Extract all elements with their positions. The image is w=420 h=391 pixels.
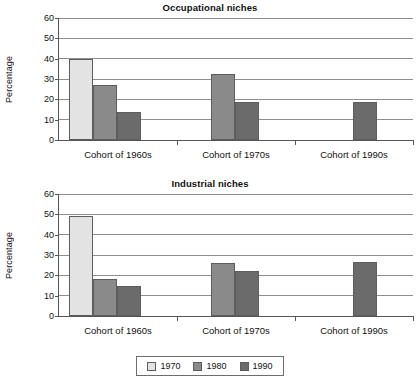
- y-tick-mark-50: [55, 38, 59, 39]
- y-tick-mark-60: [55, 194, 59, 195]
- y-tick-label-30: 30: [44, 75, 54, 84]
- gridline-30: [59, 255, 413, 256]
- y-tick-mark-30: [55, 255, 59, 256]
- y-tick-label-20: 20: [44, 95, 54, 104]
- legend-item-1970: 1970: [147, 362, 180, 371]
- y-tick-mark-40: [55, 59, 59, 60]
- bar-1980-industrial: [211, 263, 235, 316]
- category-separator: [177, 140, 178, 145]
- y-tick-label-40: 40: [44, 54, 54, 63]
- y-tick-label-50: 50: [44, 34, 54, 43]
- y-tick-label-10: 10: [44, 291, 54, 300]
- y-tick-label-60: 60: [44, 190, 54, 199]
- gridline-50: [59, 214, 413, 215]
- gridline-50: [59, 38, 413, 39]
- y-tick-mark-60: [55, 18, 59, 19]
- legend-swatch-icon: [240, 362, 249, 371]
- category-separator: [295, 140, 296, 145]
- y-tick-label-10: 10: [44, 115, 54, 124]
- legend-item-1980: 1980: [193, 362, 226, 371]
- legend-swatch-icon: [193, 362, 202, 371]
- x-axis-category-label: Cohort of 1960s: [84, 325, 152, 336]
- legend-label: 1990: [253, 362, 273, 371]
- legend-item-1990: 1990: [240, 362, 273, 371]
- axis-end-tick: [413, 140, 414, 145]
- chart-occupational-niches: Occupational niches Percentage 010203040…: [0, 0, 420, 168]
- bar-1990-occupational: [353, 102, 377, 140]
- gridline-0: [59, 316, 413, 317]
- y-tick-label-0: 0: [49, 312, 54, 321]
- chart-industrial-niches: Industrial niches Percentage 01020304050…: [0, 176, 420, 348]
- y-tick-mark-20: [55, 99, 59, 100]
- x-axis-category-label: Cohort of 1970s: [202, 149, 270, 160]
- y-tick-mark-50: [55, 214, 59, 215]
- y-tick-label-40: 40: [44, 230, 54, 239]
- bar-1980-occupational: [211, 74, 235, 140]
- y-tick-mark-30: [55, 79, 59, 80]
- bar-1970-industrial: [69, 216, 93, 316]
- y-axis-title-industrial: Percentage: [4, 210, 14, 300]
- legend-label: 1980: [206, 362, 226, 371]
- x-axis-category-label: Cohort of 1960s: [84, 149, 152, 160]
- plot-area-occupational: 0102030405060Cohort of 1960sCohort of 19…: [58, 18, 412, 140]
- figure-two-bar-charts: Occupational niches Percentage 010203040…: [0, 0, 420, 391]
- gridline-60: [59, 18, 413, 19]
- y-tick-label-50: 50: [44, 210, 54, 219]
- legend-swatch-icon: [147, 362, 156, 371]
- bar-1990-occupational: [235, 102, 259, 140]
- y-tick-label-30: 30: [44, 251, 54, 260]
- gridline-0: [59, 140, 413, 141]
- gridline-40: [59, 234, 413, 235]
- bar-1990-industrial: [353, 262, 377, 316]
- y-tick-label-60: 60: [44, 14, 54, 23]
- y-tick-mark-40: [55, 235, 59, 236]
- y-tick-mark-10: [55, 296, 59, 297]
- bar-1990-occupational: [117, 112, 141, 140]
- chart-title-occupational: Occupational niches: [0, 2, 420, 13]
- y-tick-mark-20: [55, 275, 59, 276]
- y-tick-label-20: 20: [44, 271, 54, 280]
- y-tick-label-0: 0: [49, 136, 54, 145]
- category-separator: [295, 316, 296, 321]
- y-tick-mark-10: [55, 120, 59, 121]
- chart-legend: 197019801990: [136, 356, 284, 376]
- bar-1970-occupational: [69, 59, 93, 140]
- category-separator: [177, 316, 178, 321]
- bar-1990-industrial: [235, 271, 259, 316]
- gridline-40: [59, 58, 413, 59]
- y-axis-title-occupational: Percentage: [4, 34, 14, 124]
- x-axis-category-label: Cohort of 1990s: [320, 149, 388, 160]
- gridline-30: [59, 79, 413, 80]
- bar-1980-industrial: [93, 279, 117, 316]
- gridline-60: [59, 194, 413, 195]
- x-axis-category-label: Cohort of 1990s: [320, 325, 388, 336]
- bar-1980-occupational: [93, 85, 117, 140]
- bar-1990-industrial: [117, 286, 141, 317]
- chart-title-industrial: Industrial niches: [0, 178, 420, 189]
- y-tick-mark-0: [55, 316, 59, 317]
- plot-area-industrial: 0102030405060Cohort of 1960sCohort of 19…: [58, 194, 412, 316]
- x-axis-category-label: Cohort of 1970s: [202, 325, 270, 336]
- legend-label: 1970: [160, 362, 180, 371]
- axis-end-tick: [413, 316, 414, 321]
- y-tick-mark-0: [55, 140, 59, 141]
